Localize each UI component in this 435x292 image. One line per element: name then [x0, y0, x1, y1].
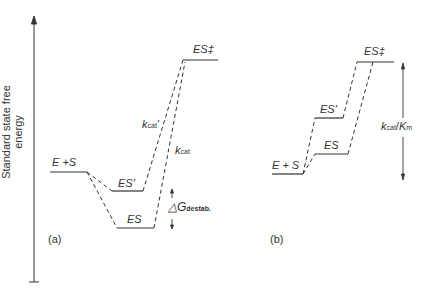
- label-kcat: kcat: [175, 145, 190, 156]
- panel-label-b: (b): [270, 234, 283, 245]
- panel-label-a: (a): [48, 234, 61, 245]
- label-es-ts-a: ES‡: [193, 44, 214, 55]
- label-es-b: ES: [324, 140, 339, 151]
- label-kcat-prime: kcat': [142, 119, 159, 130]
- y-axis-label: Standard state free energy: [0, 72, 24, 192]
- arrow-up-icon: [171, 189, 174, 193]
- label-kcat-over-km: kcat/Km: [381, 121, 412, 132]
- label-es-a: ES: [127, 214, 142, 225]
- arrow-up-icon: [32, 16, 37, 24]
- label-e-plus-s-a: E +S: [52, 157, 76, 168]
- arrow-down-icon: [402, 174, 405, 180]
- label-delta-g-destab: △Gdestab.: [168, 201, 211, 213]
- label-es-prime-a: ES': [118, 178, 135, 189]
- label-es-prime-b: ES': [320, 104, 337, 115]
- arrow-down-icon: [171, 225, 174, 229]
- panel-b-levels: [272, 62, 394, 174]
- y-axis: [29, 16, 39, 282]
- label-es-ts-b: ES‡: [364, 46, 385, 57]
- arrow-up-icon: [402, 63, 405, 69]
- energy-diagram: [0, 0, 435, 292]
- label-e-plus-s-b: E + S: [272, 160, 299, 171]
